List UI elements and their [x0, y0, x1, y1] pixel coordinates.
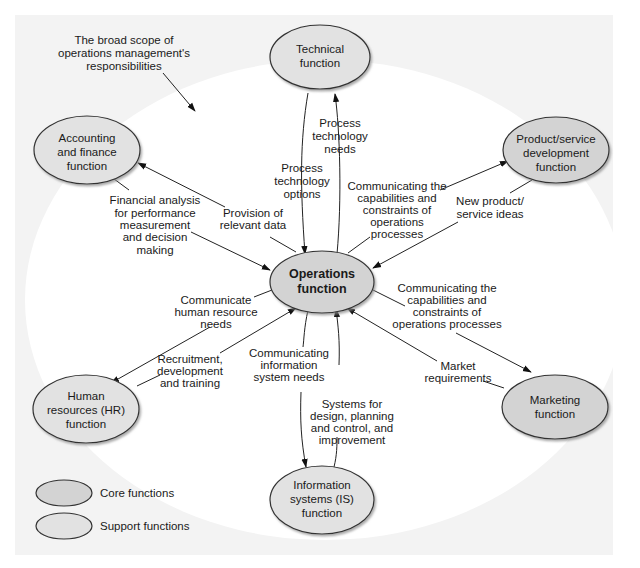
svg-text:and training: and training [160, 377, 220, 389]
svg-text:function: function [535, 408, 575, 420]
edge-label-hr-recruit: Recruitment, development and training [157, 353, 224, 389]
svg-text:Recruitment,: Recruitment, [157, 353, 222, 365]
svg-text:The broad scope of: The broad scope of [74, 34, 174, 46]
svg-text:constraints of: constraints of [413, 306, 482, 318]
legend-core-label: Core functions [100, 487, 174, 499]
svg-text:Communicating the: Communicating the [347, 180, 446, 192]
edge-label-acct-data: Provision of relevant data [220, 207, 287, 231]
svg-text:function: function [300, 57, 340, 69]
svg-text:Accounting: Accounting [59, 132, 116, 144]
svg-text:requirements: requirements [424, 372, 491, 384]
svg-text:Provision of: Provision of [223, 207, 284, 219]
svg-text:resources (HR): resources (HR) [47, 404, 125, 416]
node-information-systems[interactable]: Information systems (IS) function [270, 466, 374, 534]
svg-text:operations processes: operations processes [392, 318, 502, 330]
svg-text:Human: Human [67, 390, 104, 402]
svg-text:constraints of: constraints of [363, 204, 432, 216]
svg-text:making: making [136, 244, 173, 256]
svg-text:function: function [302, 507, 342, 519]
svg-text:options: options [283, 188, 320, 200]
svg-text:improvement: improvement [319, 434, 386, 446]
edge-label-is-systems: Systems for design, planning and control… [310, 398, 394, 446]
legend-support-swatch [36, 513, 92, 539]
svg-text:Systems for: Systems for [322, 398, 383, 410]
svg-text:operations management's: operations management's [58, 47, 190, 59]
svg-text:capabilities and: capabilities and [357, 192, 436, 204]
svg-text:Communicate: Communicate [181, 294, 252, 306]
svg-text:and finance: and finance [57, 146, 116, 158]
svg-text:system needs: system needs [254, 371, 325, 383]
svg-text:function: function [66, 418, 106, 430]
svg-text:Process: Process [281, 162, 323, 174]
svg-text:and control, and: and control, and [311, 422, 393, 434]
svg-text:Marketing: Marketing [530, 394, 581, 406]
svg-text:New product/: New product/ [456, 195, 525, 207]
svg-text:measurement: measurement [120, 219, 191, 231]
svg-text:relevant data: relevant data [220, 219, 287, 231]
svg-text:needs: needs [200, 318, 232, 330]
svg-text:development: development [523, 147, 590, 159]
svg-text:technology: technology [274, 175, 330, 187]
svg-text:operations: operations [370, 216, 424, 228]
svg-text:design, planning: design, planning [310, 410, 394, 422]
svg-text:needs: needs [324, 143, 356, 155]
svg-text:function: function [297, 282, 346, 296]
operations-scope-diagram: The broad scope of operations management… [0, 0, 640, 568]
legend-support-label: Support functions [100, 520, 190, 532]
svg-text:Financial analysis: Financial analysis [110, 194, 201, 206]
node-marketing[interactable]: Marketing function [502, 375, 608, 439]
edge-label-is-needs: Communicating information system needs [249, 347, 329, 383]
node-hr[interactable]: Human resources (HR) function [33, 375, 139, 443]
svg-text:Product/service: Product/service [516, 133, 595, 145]
svg-text:development: development [157, 365, 224, 377]
node-accounting[interactable]: Accounting and finance function [34, 116, 140, 184]
svg-text:Operations: Operations [289, 267, 355, 281]
svg-text:Process: Process [319, 117, 361, 129]
svg-text:responsibilities: responsibilities [86, 60, 162, 72]
svg-text:technology: technology [312, 130, 368, 142]
svg-text:systems (IS): systems (IS) [290, 493, 354, 505]
svg-text:and decision: and decision [123, 231, 188, 243]
svg-text:function: function [536, 161, 576, 173]
svg-text:function: function [67, 160, 107, 172]
svg-text:Information: Information [293, 479, 351, 491]
svg-text:Communicating the: Communicating the [397, 282, 496, 294]
svg-text:information: information [261, 359, 318, 371]
svg-text:for performance: for performance [114, 207, 195, 219]
svg-text:human resource: human resource [174, 306, 257, 318]
svg-text:Technical: Technical [296, 43, 344, 55]
node-technical[interactable]: Technical function [270, 25, 370, 89]
svg-text:Market: Market [440, 360, 476, 372]
svg-text:service ideas: service ideas [456, 208, 523, 220]
edge-label-prod-ideas: New product/ service ideas [456, 195, 525, 220]
svg-text:processes: processes [371, 228, 424, 240]
node-product-service[interactable]: Product/service development function [503, 117, 609, 183]
node-operations[interactable]: Operations function [270, 251, 374, 313]
svg-text:Communicating: Communicating [249, 347, 329, 359]
legend-core-swatch [36, 480, 92, 506]
svg-text:capabilities and: capabilities and [407, 294, 486, 306]
